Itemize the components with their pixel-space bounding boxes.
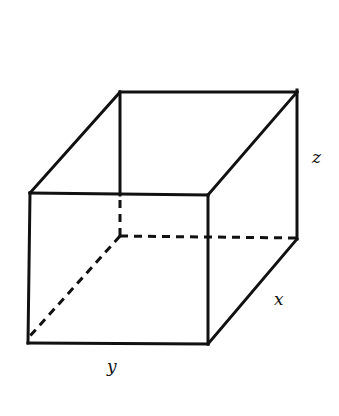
bottom-right-edge xyxy=(208,239,297,344)
label-y: y xyxy=(106,356,117,376)
box-diagram: z x y xyxy=(0,0,339,416)
top-left-edge xyxy=(30,92,120,193)
label-z: z xyxy=(311,147,322,167)
hidden-left-bottom-edge xyxy=(30,236,120,336)
front-bottom-edge xyxy=(28,343,208,344)
front-left-edge xyxy=(28,193,30,343)
label-x: x xyxy=(274,289,284,309)
hidden-back-bottom-edge xyxy=(120,236,297,238)
top-right-edge xyxy=(208,92,297,195)
